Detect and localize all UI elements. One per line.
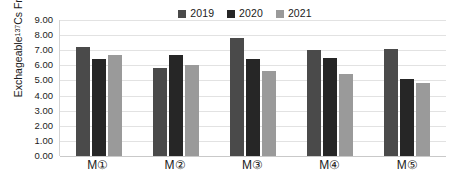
y-axis-tick-label: 9.00 [35,15,54,25]
y-axis-title-prefix: Exchageable [12,37,25,98]
legend-swatch-2019 [178,10,186,18]
plot-area [59,20,446,156]
y-axis-tick-label: 1.00 [35,136,54,146]
bar-2021-M③[interactable] [262,71,276,156]
y-axis-tick-label: 3.00 [35,106,54,116]
legend-item-2019: 2019 [178,8,214,19]
bar-group [153,20,199,156]
x-axis-label: M⑤ [397,158,418,172]
bar-2019-M⑤[interactable] [384,49,398,156]
y-axis-tick-label: 5.00 [35,75,54,85]
y-axis-title-suffix: Cs Fraction(%) [12,0,25,25]
gridline [60,156,446,157]
bar-2019-M③[interactable] [230,38,244,156]
x-axis-label: M② [165,158,186,172]
y-axis-tick-label: 2.00 [35,121,54,131]
bar-group [384,20,430,156]
bar-group [230,20,276,156]
x-axis-labels: M①M②M③M④M⑤ [59,158,446,172]
bar-2020-M①[interactable] [92,59,106,156]
x-axis-label: M④ [319,158,340,172]
y-axis-tick-label: 0.00 [35,151,54,161]
bar-2019-M④[interactable] [307,50,321,156]
bar-2019-M②[interactable] [153,68,167,156]
y-axis-tick-label: 7.00 [35,45,54,55]
y-axis-tick-label: 6.00 [35,60,54,70]
y-axis-ticks: 9.008.007.006.005.004.003.002.001.000.00 [26,20,56,156]
bar-2020-M④[interactable] [323,58,337,156]
bar-2020-M⑤[interactable] [400,79,414,156]
bar-2020-M③[interactable] [246,59,260,156]
legend-swatch-2020 [227,10,235,18]
x-axis-label: M① [87,158,108,172]
y-axis-tick-label: 8.00 [35,30,54,40]
legend-label-2021: 2021 [288,8,312,19]
bar-chart: 2019 2020 2021 Exchageable 137Cs Fractio… [0,0,450,190]
legend-swatch-2021 [276,10,284,18]
legend-item-2020: 2020 [227,8,263,19]
legend-item-2021: 2021 [276,8,312,19]
x-axis-label: M③ [242,158,263,172]
bar-group [307,20,353,156]
plot-wrapper: 9.008.007.006.005.004.003.002.001.000.00 [26,20,446,156]
bar-group [76,20,122,156]
chart-legend: 2019 2020 2021 [0,8,450,19]
legend-label-2020: 2020 [239,8,263,19]
bar-groups [60,20,446,156]
y-axis-title: Exchageable 137Cs Fraction(%) [10,0,26,102]
bar-2021-M⑤[interactable] [416,83,430,156]
legend-label-2019: 2019 [190,8,214,19]
bar-2021-M①[interactable] [108,55,122,156]
y-axis-tick-label: 4.00 [35,91,54,101]
bar-2021-M②[interactable] [185,65,199,156]
bar-2021-M④[interactable] [339,74,353,156]
bar-2020-M②[interactable] [169,55,183,156]
bar-2019-M①[interactable] [76,47,90,156]
